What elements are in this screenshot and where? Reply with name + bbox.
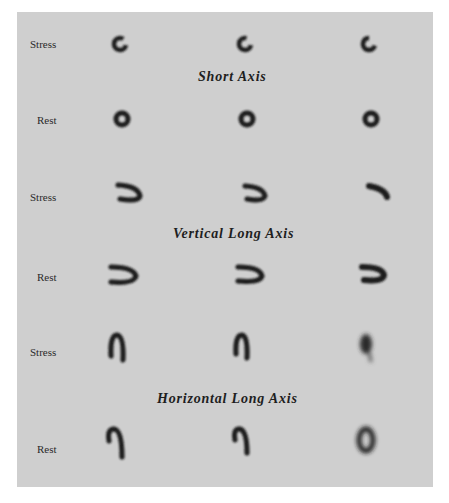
row-label-vertical-long-axis-stress: Stress: [30, 191, 56, 203]
scan-vertical-long-axis-stress-3: [361, 181, 395, 207]
scan-horizontal-long-axis-stress-2: [229, 330, 255, 366]
row-label-short-axis-rest: Rest: [37, 114, 57, 126]
row-label-horizontal-long-axis-rest: Rest: [37, 443, 57, 455]
row-label-vertical-long-axis-rest: Rest: [37, 271, 57, 283]
scan-horizontal-long-axis-rest-1: [102, 423, 130, 463]
section-title-short-axis: Short Axis: [198, 69, 267, 85]
scan-short-axis-rest-3: [360, 108, 382, 130]
scan-vertical-long-axis-rest-1: [103, 261, 141, 289]
scan-short-axis-rest-1: [111, 108, 133, 130]
scan-horizontal-long-axis-stress-3: [353, 330, 379, 366]
scan-short-axis-stress-2: [234, 33, 256, 55]
row-label-horizontal-long-axis-stress: Stress: [30, 346, 56, 358]
scan-short-axis-rest-2: [236, 108, 258, 130]
section-title-vertical-long-axis: Vertical Long Axis: [173, 226, 294, 242]
row-label-short-axis-stress: Stress: [30, 38, 56, 50]
scan-vertical-long-axis-stress-2: [237, 181, 271, 207]
scan-short-axis-stress-1: [109, 33, 131, 55]
scan-horizontal-long-axis-rest-2: [227, 423, 255, 463]
scan-horizontal-long-axis-rest-3: [352, 423, 380, 463]
scan-vertical-long-axis-rest-2: [230, 261, 268, 289]
section-title-horizontal-long-axis: Horizontal Long Axis: [157, 391, 298, 407]
scan-vertical-long-axis-stress-1: [112, 180, 146, 206]
scan-horizontal-long-axis-stress-1: [104, 330, 130, 366]
scan-short-axis-stress-3: [358, 33, 380, 55]
scan-vertical-long-axis-rest-3: [354, 261, 392, 289]
